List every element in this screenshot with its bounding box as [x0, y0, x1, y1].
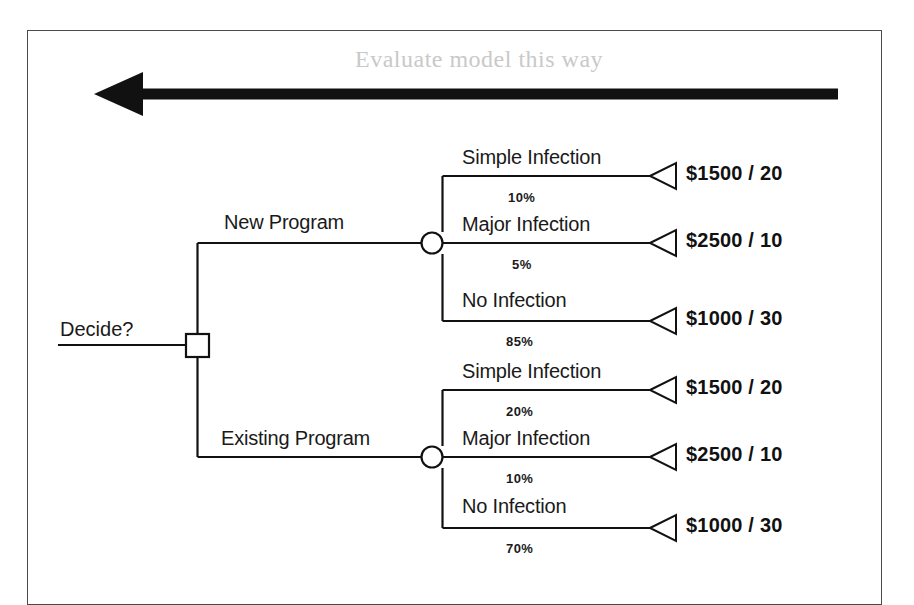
terminal-node-icon [650, 377, 676, 403]
outcome-probability-new-none: 85% [506, 334, 533, 349]
outcome-probability-existing-simple: 20% [506, 404, 533, 419]
branch-label-new-program: New Program [224, 211, 344, 234]
outcome-label-new-none: No Infection [462, 289, 566, 312]
outcome-payoff-existing-none: $1000 / 30 [686, 514, 783, 537]
decision-spine [198, 243, 423, 457]
outcome-probability-existing-major: 10% [506, 471, 533, 486]
outcome-probability-new-simple: 10% [508, 190, 535, 205]
branch-label-existing-program: Existing Program [221, 427, 370, 450]
outcome-label-existing-none: No Infection [462, 495, 566, 518]
evaluate-direction-arrow [94, 72, 838, 116]
terminal-node-icon [650, 163, 676, 189]
terminal-node-triangles-lower [650, 377, 676, 541]
terminal-node-icon [650, 308, 676, 334]
terminal-node-icon [650, 444, 676, 470]
outcome-label-new-simple: Simple Infection [462, 146, 601, 169]
outcome-payoff-new-simple: $1500 / 20 [686, 162, 783, 185]
outcome-label-existing-major: Major Infection [462, 427, 590, 450]
root-label: Decide? [60, 318, 133, 341]
outcome-payoff-new-major: $2500 / 10 [686, 229, 783, 252]
terminal-node-icon [650, 230, 676, 256]
outcome-label-new-major: Major Infection [462, 213, 590, 236]
outcome-payoff-existing-simple: $1500 / 20 [686, 376, 783, 399]
outcome-probability-existing-none: 70% [506, 541, 533, 556]
outcome-probability-new-major: 5% [512, 257, 532, 272]
chance-node-existing-program[interactable] [422, 447, 443, 468]
outcome-label-existing-simple: Simple Infection [462, 360, 601, 383]
terminal-node-icon [650, 515, 676, 541]
terminal-node-triangles-upper [650, 163, 676, 334]
decision-node-square[interactable] [186, 334, 209, 357]
chance-node-new-program[interactable] [422, 233, 443, 254]
outcome-payoff-existing-major: $2500 / 10 [686, 443, 783, 466]
outcome-payoff-new-none: $1000 / 30 [686, 307, 783, 330]
